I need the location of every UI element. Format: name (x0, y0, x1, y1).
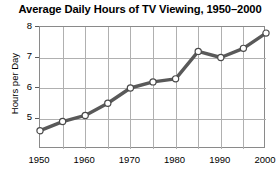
plot-area (39, 26, 265, 148)
data-point-marker (37, 128, 43, 134)
data-point-marker (105, 100, 111, 106)
x-tick-label: 1980 (155, 154, 195, 165)
y-tick-label: 8 (2, 21, 32, 31)
data-series-line (40, 27, 266, 149)
x-tick-label: 1990 (200, 154, 240, 165)
x-tick-label: 1950 (19, 154, 59, 165)
x-tick-label: 1970 (109, 154, 149, 165)
data-point-marker (82, 112, 88, 118)
data-point-marker (60, 118, 66, 124)
data-point-marker (127, 85, 133, 91)
data-point-marker (173, 76, 179, 82)
y-tick-label: 7 (2, 51, 32, 61)
data-point-marker (263, 30, 269, 36)
data-point-marker (240, 45, 246, 51)
chart-figure: Average Daily Hours of TV Viewing, 1950–… (0, 0, 280, 176)
data-point-marker (195, 48, 201, 54)
y-tick-label: 5 (2, 112, 32, 122)
x-tick-label: 2000 (245, 154, 280, 165)
y-tick-label: 6 (2, 82, 32, 92)
data-point-marker (218, 54, 224, 60)
x-tick-label: 1960 (64, 154, 104, 165)
data-point-marker (150, 79, 156, 85)
chart-title: Average Daily Hours of TV Viewing, 1950–… (0, 3, 280, 15)
